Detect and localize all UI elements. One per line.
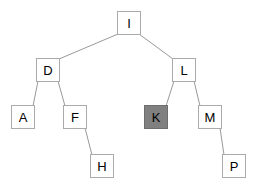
tree-node-label-f: F	[71, 111, 79, 124]
tree-edge-m-p	[220, 128, 224, 155]
tree-edge-l-m	[194, 81, 200, 106]
tree-node-label-l: L	[180, 64, 187, 77]
tree-edge-d-f	[58, 81, 65, 106]
tree-edge-f-h	[85, 128, 92, 155]
tree-node-l[interactable]: L	[172, 58, 196, 82]
tree-node-label-p: P	[230, 160, 239, 173]
tree-edge-i-l	[139, 34, 173, 59]
tree-node-a[interactable]: A	[11, 105, 35, 129]
tree-node-h[interactable]: H	[90, 154, 114, 178]
tree-node-m[interactable]: M	[198, 105, 222, 129]
tree-node-d[interactable]: D	[36, 58, 60, 82]
tree-node-f[interactable]: F	[63, 105, 87, 129]
tree-edge-l-k	[166, 81, 174, 106]
binary-tree-diagram: IDLAFKMHP	[0, 0, 256, 190]
tree-node-label-m: M	[205, 111, 216, 124]
tree-edge-d-a	[33, 81, 38, 106]
tree-node-i[interactable]: I	[117, 11, 141, 35]
tree-node-label-k: K	[152, 111, 161, 124]
tree-edge-i-d	[59, 34, 118, 59]
tree-node-p[interactable]: P	[222, 154, 246, 178]
tree-node-k[interactable]: K	[144, 105, 168, 129]
tree-node-label-a: A	[19, 111, 28, 124]
tree-node-label-h: H	[97, 160, 106, 173]
tree-node-label-d: D	[43, 64, 52, 77]
tree-node-label-i: I	[127, 17, 131, 30]
